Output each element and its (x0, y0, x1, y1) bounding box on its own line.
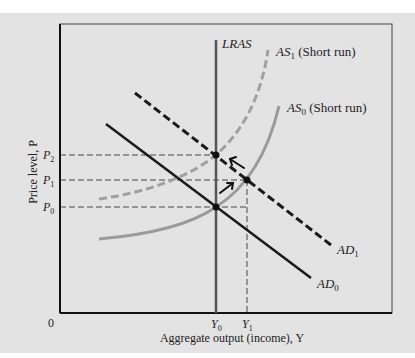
point-p2 (213, 152, 220, 159)
tick-p2: P2 (42, 148, 54, 164)
as1-label: AS1 (Short run) (275, 44, 356, 61)
plot-frame (60, 24, 392, 313)
tick-p0: P0 (42, 200, 54, 216)
arrow-up-left-icon (230, 157, 244, 168)
ad0-line (106, 124, 311, 278)
x-axis-label: Aggregate output (income), Y (160, 331, 305, 345)
as0-curve (99, 106, 279, 239)
point-p0 (213, 204, 220, 211)
ad-as-diagram: LRAS AS1 (Short run) AS0 (Short run) AD1… (0, 0, 415, 358)
ad0-label: AD0 (316, 276, 339, 293)
y-axis-label: Price level, P (26, 140, 40, 204)
ad1-label: AD1 (336, 242, 359, 259)
lras-label: LRAS (221, 36, 252, 51)
as0-label: AS0 (Short run) (286, 100, 367, 117)
arrow-up-right-icon (220, 183, 233, 193)
tick-p1: P1 (42, 173, 54, 189)
origin-label: 0 (48, 316, 54, 330)
point-p1 (244, 177, 251, 184)
guide-lines (60, 155, 247, 313)
